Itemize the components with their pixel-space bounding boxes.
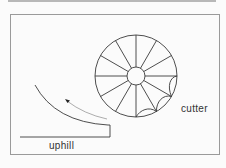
frame (11, 15, 220, 155)
hub (127, 67, 145, 85)
diagram-canvas (0, 0, 226, 168)
ground-step (20, 125, 110, 137)
cutter-wheel (95, 35, 177, 117)
motion-arrow-icon (65, 99, 107, 119)
slope-arc (35, 85, 108, 125)
cutter-label: cutter (181, 103, 208, 114)
uphill-label: uphill (49, 140, 74, 151)
